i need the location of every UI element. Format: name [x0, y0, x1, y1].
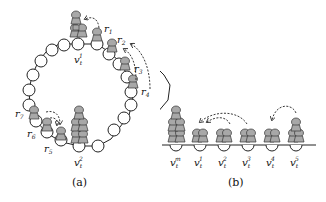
label-vb1: vt1: [194, 155, 203, 169]
robot-r1: [92, 28, 102, 41]
label-vb3: vt3: [242, 155, 251, 169]
line-labels: vtm vt1 vt2 vt3 vt4 vt5: [170, 155, 299, 169]
stack-v5: [288, 118, 304, 142]
stack-v3: [240, 129, 256, 142]
arrow-v5-to-v4: [272, 106, 296, 120]
stack-v2: [216, 129, 232, 142]
label-vb2: vt2: [218, 155, 227, 169]
robot-r3: [120, 57, 130, 70]
label-v2: vt2: [74, 155, 83, 169]
label-vb4: vt4: [266, 155, 275, 169]
robot-r6: [42, 118, 52, 131]
arrow-v2-to-v1: [207, 118, 230, 124]
line-nodes: [170, 145, 302, 151]
stack-v1: [192, 129, 208, 142]
label-vb5: vt5: [290, 155, 299, 169]
robot-r7: [29, 106, 39, 119]
caption-b: (b): [228, 176, 244, 189]
robot-r4: [128, 75, 138, 88]
stack-vm: [168, 106, 185, 142]
robot-r2: [107, 39, 117, 52]
robot-r5: [56, 127, 66, 140]
panel-b-line: vtm vt1 vt2 vt3 vt4 vt5 (b): [162, 106, 316, 189]
label-v1: vt1: [74, 52, 83, 66]
caption-a: (a): [72, 176, 87, 189]
label-vm: vtm: [170, 155, 181, 169]
stack-v4: [264, 129, 280, 142]
figure: r1 r2 r3 r4 r5 r6 r7 vt1 vt2 (a): [0, 0, 326, 202]
